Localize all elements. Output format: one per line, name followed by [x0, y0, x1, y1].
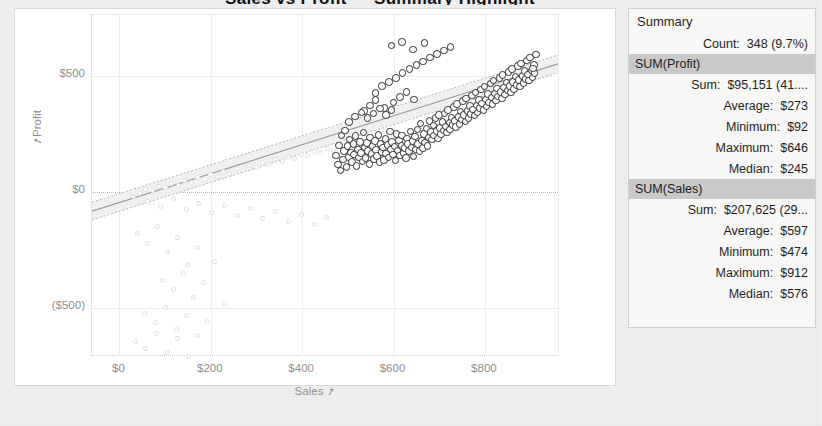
- chart-card: ➚Profit Sales➚ $500$0($500) $0$200$400$6…: [14, 8, 616, 386]
- data-point: [248, 206, 253, 211]
- data-point: [156, 184, 161, 189]
- data-point: [273, 209, 278, 214]
- data-point: [205, 319, 210, 324]
- data-point: [133, 339, 138, 344]
- summary-stat-value: $474: [780, 245, 808, 259]
- data-point[interactable]: [341, 127, 349, 135]
- summary-stat-label: Maximum:: [635, 266, 780, 280]
- summary-stat-value: $95,151 (41....: [727, 78, 808, 92]
- data-point: [174, 327, 179, 332]
- summary-stat-label: Minimum:: [635, 245, 780, 259]
- summary-count-value: 348 (9.7%): [747, 37, 808, 51]
- summary-stat-row: Median:$245: [629, 158, 815, 179]
- summary-stat-row: Minimum:$474: [629, 241, 815, 262]
- summary-stat-value: $207,625 (29...: [724, 203, 808, 217]
- summary-stat-row: Average:$597: [629, 220, 815, 241]
- data-point[interactable]: [410, 96, 418, 104]
- data-point: [286, 155, 291, 160]
- data-point[interactable]: [532, 51, 540, 59]
- summary-stat-value: $245: [780, 162, 808, 176]
- page-title: Sales vs Profit — Summary Highlight: [120, 0, 640, 5]
- summary-count-label: Count:: [635, 37, 747, 51]
- y-axis-title: ➚Profit: [31, 110, 43, 149]
- summary-stat-label: Maximum:: [635, 141, 780, 155]
- summary-stat-row: Average:$273: [629, 95, 815, 116]
- summary-stat-value: $576: [780, 287, 808, 301]
- x-axis-title-label: Sales: [295, 385, 324, 397]
- data-point: [195, 333, 200, 338]
- x-tick-label-0: $0: [83, 362, 153, 374]
- data-point: [312, 222, 317, 227]
- data-point[interactable]: [403, 88, 411, 96]
- data-point[interactable]: [424, 142, 432, 150]
- data-point: [299, 212, 304, 217]
- summary-panel-title: Summary: [629, 9, 815, 33]
- data-point: [189, 180, 194, 185]
- summary-stat-row: Maximum:$912: [629, 262, 815, 283]
- sort-icon-profit[interactable]: ➚: [31, 135, 44, 146]
- summary-stat-label: Median:: [635, 287, 780, 301]
- summary-groups: SUM(Profit)Sum:$95,151 (41....Average:$2…: [629, 54, 815, 304]
- scanned-page-background: Sales vs Profit — Summary Highlight ➚Pro…: [0, 0, 822, 426]
- data-point: [325, 146, 330, 151]
- data-point: [241, 168, 246, 173]
- data-point: [215, 174, 220, 179]
- x-tick-label-2: $400: [266, 362, 336, 374]
- summary-count-row: Count: 348 (9.7%): [629, 33, 815, 54]
- data-point: [163, 185, 168, 190]
- summary-stat-row: Maximum:$646: [629, 137, 815, 158]
- data-point: [184, 207, 189, 212]
- data-point: [184, 313, 189, 318]
- x-tick-label-1: $200: [175, 362, 245, 374]
- summary-stat-label: Average:: [635, 224, 780, 238]
- data-point: [158, 204, 163, 209]
- data-point[interactable]: [529, 65, 537, 73]
- data-point[interactable]: [392, 74, 400, 82]
- summary-stat-value: $597: [780, 224, 808, 238]
- summary-stat-row: Sum:$95,151 (41....: [629, 74, 815, 95]
- x-axis-title: Sales➚: [15, 385, 615, 397]
- summary-stat-label: Sum:: [635, 78, 727, 92]
- data-point: [145, 241, 150, 246]
- data-point: [324, 215, 329, 220]
- y-tick-label-2: ($500): [31, 299, 85, 311]
- summary-group-header[interactable]: SUM(Profit): [629, 54, 815, 74]
- summary-panel[interactable]: Summary Count: 348 (9.7%) SUM(Profit)Sum…: [628, 8, 816, 328]
- x-tick-label-4: $800: [449, 362, 519, 374]
- summary-stat-row: Sum:$207,625 (29...: [629, 199, 815, 220]
- data-point: [280, 159, 285, 164]
- summary-stat-row: Minimum:$92: [629, 116, 815, 137]
- data-point[interactable]: [421, 39, 429, 47]
- y-tick-label-1: $0: [31, 183, 85, 195]
- summary-stat-label: Sum:: [635, 203, 724, 217]
- x-tick-label-3: $600: [358, 362, 428, 374]
- data-point: [312, 149, 317, 154]
- y-tick-label-0: $500: [31, 67, 85, 79]
- summary-group-header[interactable]: SUM(Sales): [629, 179, 815, 199]
- sort-icon-sales[interactable]: ➚: [326, 385, 337, 398]
- data-point[interactable]: [402, 154, 410, 162]
- data-point: [131, 194, 136, 199]
- summary-stat-value: $273: [780, 99, 808, 113]
- data-point: [222, 203, 227, 208]
- data-point: [176, 183, 181, 188]
- y-axis-title-label: Profit: [31, 110, 43, 137]
- data-point[interactable]: [398, 38, 406, 46]
- data-point[interactable]: [409, 46, 417, 54]
- data-point: [181, 271, 186, 276]
- trend-line-with-confidence-band: [92, 15, 558, 355]
- summary-stat-label: Minimum:: [635, 120, 787, 134]
- data-point: [163, 305, 168, 310]
- data-point: [186, 354, 191, 359]
- data-point: [142, 311, 147, 316]
- summary-stat-value: $92: [787, 120, 808, 134]
- summary-stat-row: Median:$576: [629, 283, 815, 304]
- data-point: [299, 152, 304, 157]
- data-point[interactable]: [345, 118, 353, 126]
- scatter-plot-area[interactable]: [91, 14, 559, 356]
- data-point: [254, 165, 259, 170]
- summary-stat-value: $646: [780, 141, 808, 155]
- summary-stat-label: Median:: [635, 162, 780, 176]
- data-point: [153, 320, 158, 325]
- summary-stat-value: $912: [780, 266, 808, 280]
